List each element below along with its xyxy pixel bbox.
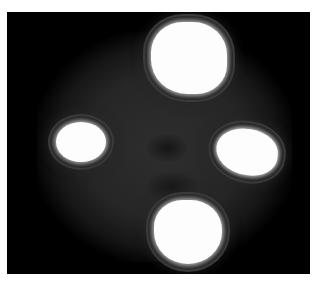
bright-spot-left bbox=[56, 122, 106, 162]
image-frame bbox=[7, 12, 310, 274]
bright-spot-bottom bbox=[154, 200, 222, 264]
bright-spot-top bbox=[151, 22, 227, 94]
center-dark-region-lower bbox=[147, 172, 197, 202]
center-dark-region bbox=[147, 134, 187, 162]
